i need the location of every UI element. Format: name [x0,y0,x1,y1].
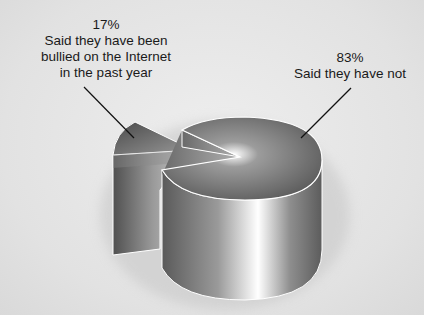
label-17-percent: 17% Said they have been bullied on the I… [20,17,192,81]
leader-line-83 [301,88,351,138]
label-17-pct: 17% [20,17,192,33]
leader-line-17 [84,87,134,138]
chart-stage: 17% Said they have been bullied on the I… [0,0,424,315]
label-83-pct: 83% [280,50,420,66]
label-17-line1: Said they have been [20,33,192,49]
slice-83-percent [162,117,322,300]
label-17-line2: bullied on the Internet [20,49,192,65]
label-83-line1: Said they have not [280,66,420,82]
label-17-line3: in the past year [20,65,192,81]
label-83-percent: 83% Said they have not [280,50,420,82]
